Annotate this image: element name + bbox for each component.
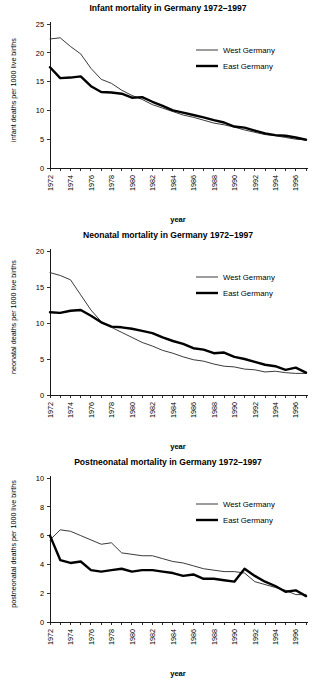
y-tick-label: 10	[36, 106, 44, 115]
y-tick-label: 6	[40, 531, 44, 540]
x-tick-label: 1972	[46, 175, 55, 191]
neonatal-mortality-chart: Neonatal mortality in Germany 1972–1997 …	[0, 227, 318, 454]
series-line-west-germany	[50, 273, 306, 374]
series-line-east-germany	[50, 67, 306, 140]
legend-label-west: West Germany	[223, 273, 275, 282]
chart-title: Postneonatal mortality in Germany 1972–1…	[74, 457, 262, 467]
x-tick-label: 1984	[169, 175, 178, 191]
x-tick-label: 1990	[230, 629, 239, 645]
legend-label-west: West Germany	[223, 46, 275, 55]
x-tick-label: 1988	[210, 175, 219, 191]
y-tick-label: 0	[40, 618, 44, 627]
legend-label-east: East Germany	[223, 516, 273, 525]
x-tick-label: 1972	[46, 402, 55, 418]
x-tick-label: 1980	[128, 629, 137, 645]
x-tick-label: 1994	[271, 629, 280, 645]
x-axis-label: year	[170, 215, 186, 224]
figure-page: Infant mortality in Germany 1972–1997 in…	[0, 0, 318, 682]
x-tick-label: 1972	[46, 629, 55, 645]
series-line-east-germany	[50, 536, 306, 596]
y-tick-label: 15	[36, 283, 44, 292]
x-tick-label: 1984	[169, 629, 178, 645]
x-tick-label: 1992	[251, 629, 260, 645]
y-axis-label: postneonatal deaths per 1000 live births	[9, 480, 18, 608]
x-tick-label: 1976	[87, 629, 96, 645]
series-line-east-germany	[50, 310, 306, 373]
x-tick-label: 1978	[107, 629, 116, 645]
x-tick-label: 1982	[148, 629, 157, 645]
x-tick-label: 1990	[230, 402, 239, 418]
chart-title: Neonatal mortality in Germany 1972–1997	[83, 230, 253, 240]
x-tick-label: 1992	[251, 175, 260, 191]
y-tick-label: 15	[36, 77, 44, 86]
series-line-west-germany	[50, 530, 306, 595]
x-tick-label: 1988	[210, 629, 219, 645]
y-axis-label: neonatal deaths per 1000 live births	[9, 260, 18, 374]
chart-panel-infant-mortality: Infant mortality in Germany 1972–1997 in…	[0, 0, 318, 227]
chart-title: Infant mortality in Germany 1972–1997	[89, 3, 246, 13]
legend-1: West Germany East Germany	[196, 273, 275, 298]
y-tick-label: 8	[40, 503, 44, 512]
x-axis-label: year	[170, 442, 186, 451]
x-tick-label: 1976	[87, 175, 96, 191]
x-tick-label: 1986	[189, 402, 198, 418]
chart-panel-neonatal-mortality: Neonatal mortality in Germany 1972–1997 …	[0, 227, 318, 454]
x-tick-label: 1980	[128, 402, 137, 418]
y-tick-label: 20	[36, 247, 44, 256]
x-tick-label: 1978	[107, 175, 116, 191]
y-tick-label: 5	[40, 355, 44, 364]
y-tick-label: 0	[40, 164, 44, 173]
legend-label-east: East Germany	[223, 62, 273, 71]
x-tick-label: 1994	[271, 175, 280, 191]
legend-label-east: East Germany	[223, 289, 273, 298]
x-tick-label: 1984	[169, 402, 178, 418]
x-tick-label: 1974	[66, 175, 75, 191]
legend-2: West Germany East Germany	[196, 500, 275, 525]
x-tick-label: 1974	[66, 402, 75, 418]
x-tick-label: 1992	[251, 402, 260, 418]
y-tick-label: 5	[40, 135, 44, 144]
y-tick-label: 2	[40, 589, 44, 598]
x-tick-label: 1996	[291, 629, 300, 645]
x-tick-label: 1988	[210, 402, 219, 418]
y-tick-label: 0	[40, 391, 44, 400]
x-tick-label: 1996	[291, 175, 300, 191]
y-tick-label: 4	[40, 560, 44, 569]
y-tick-label: 10	[36, 319, 44, 328]
postneonatal-mortality-chart: Postneonatal mortality in Germany 1972–1…	[0, 454, 318, 682]
x-tick-label: 1976	[87, 402, 96, 418]
x-tick-label: 1994	[271, 402, 280, 418]
x-tick-label: 1978	[107, 402, 116, 418]
x-tick-label: 1982	[148, 402, 157, 418]
x-tick-label: 1996	[291, 402, 300, 418]
infant-mortality-chart: Infant mortality in Germany 1972–1997 in…	[0, 0, 318, 227]
x-tick-label: 1982	[148, 175, 157, 191]
x-tick-label: 1986	[189, 175, 198, 191]
x-tick-label: 1986	[189, 629, 198, 645]
chart-panel-postneonatal-mortality: Postneonatal mortality in Germany 1972–1…	[0, 454, 318, 681]
x-tick-label: 1990	[230, 175, 239, 191]
legend-0: West Germany East Germany	[196, 46, 275, 71]
x-axis-label: year	[170, 669, 186, 678]
legend-label-west: West Germany	[223, 500, 275, 509]
y-tick-label: 10	[36, 474, 44, 483]
y-tick-label: 25	[36, 20, 44, 29]
y-axis-label: infant deaths per 1000 live births	[9, 38, 18, 142]
y-tick-label: 20	[36, 49, 44, 58]
x-tick-label: 1974	[66, 629, 75, 645]
x-tick-label: 1980	[128, 175, 137, 191]
